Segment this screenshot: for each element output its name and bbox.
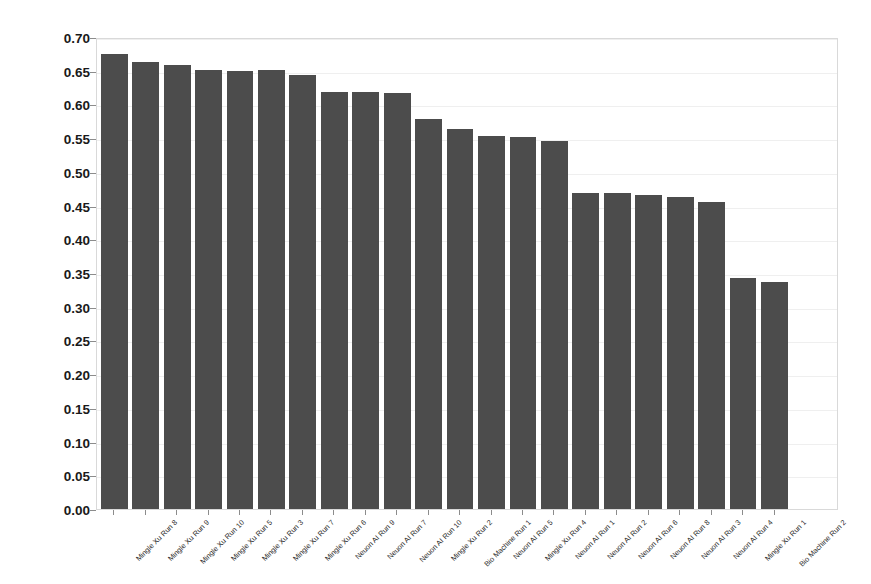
bar [761,282,788,509]
y-axis-tick-label: 0.70 [30,31,90,46]
x-axis-tick-mark [522,510,523,515]
x-axis-tick-mark [742,510,743,515]
y-axis-tick-label: 0.40 [30,233,90,248]
x-axis-tick-mark [365,510,366,515]
x-axis-tick-mark [553,510,554,515]
bar [384,93,411,509]
bar [352,92,379,509]
bar [321,92,348,509]
bar [478,136,505,509]
x-axis-tick-mark [459,510,460,515]
y-axis-tick-label: 0.65 [30,64,90,79]
y-axis-tick-label: 0.30 [30,300,90,315]
x-axis-tick-mark [491,510,492,515]
y-axis-tick-label: 0.00 [30,503,90,518]
x-axis-tick-mark [679,510,680,515]
bar [510,137,537,509]
y-axis-tick-label: 0.45 [30,199,90,214]
y-axis-tick-mark [90,510,96,511]
bar [572,193,599,509]
x-axis-tick-mark [648,510,649,515]
y-axis-tick-label: 0.50 [30,165,90,180]
bar [698,202,725,509]
bar [289,75,316,509]
x-axis-tick-mark [239,510,240,515]
bar [101,54,128,509]
bar [227,71,254,509]
x-axis-tick-mark [396,510,397,515]
x-axis-tick-mark [176,510,177,515]
bar [730,278,757,509]
bar [195,70,222,509]
bar [635,195,662,509]
y-axis-tick-label: 0.55 [30,132,90,147]
x-axis-tick-mark [616,510,617,515]
x-axis-tick-mark [208,510,209,515]
bar [258,70,285,509]
x-axis-tick-mark [113,510,114,515]
bar [447,129,474,509]
x-axis-tick-mark [270,510,271,515]
x-axis-tick-mark [302,510,303,515]
x-axis-tick-mark [585,510,586,515]
plot-area [96,38,838,510]
x-axis-tick-mark [333,510,334,515]
y-axis-tick-label: 0.15 [30,401,90,416]
y-axis-tick-label: 0.25 [30,334,90,349]
y-axis-tick-label: 0.60 [30,98,90,113]
y-axis-tick-label: 0.20 [30,368,90,383]
y-axis-tick-label: 0.35 [30,267,90,282]
bar [604,193,631,509]
bar [541,141,568,509]
y-axis-tick-label: 0.10 [30,435,90,450]
bar [415,119,442,509]
x-axis-tick-mark [711,510,712,515]
x-axis-tick-mark [774,510,775,515]
bar-group [97,39,837,509]
bar [667,197,694,509]
bar-chart-figure: Macro Averaged Mean Reciprocal Rank 0.00… [0,0,871,584]
bar [164,65,191,509]
y-axis-tick-label: 0.05 [30,469,90,484]
x-axis-tick-mark [145,510,146,515]
x-axis-tick-mark [428,510,429,515]
bar [132,62,159,509]
